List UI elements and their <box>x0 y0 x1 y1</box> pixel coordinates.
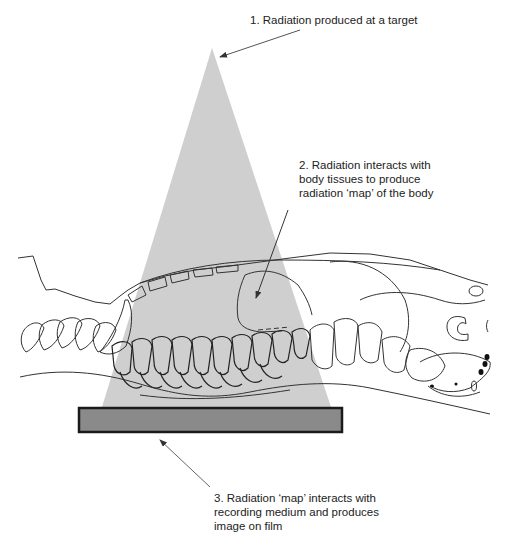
label-tissue-interaction: 2. Radiation interacts with body tissues… <box>299 158 433 200</box>
label-line: image on film <box>214 519 379 533</box>
label-line: 1. Radiation produced at a target <box>250 13 418 27</box>
marker-dots <box>430 354 490 388</box>
x-ray-beam-cone <box>102 48 331 407</box>
radiography-diagram <box>0 0 507 534</box>
label-radiation-target: 1. Radiation produced at a target <box>250 13 418 27</box>
label-line: radiation ‘map’ of the body <box>299 186 433 200</box>
label-film-image: 3. Radiation ‘map’ interacts with record… <box>214 491 379 533</box>
arrow-to-target <box>220 30 300 57</box>
label-line: recording medium and produces <box>214 505 379 519</box>
arrow-to-film <box>160 440 210 487</box>
label-line: 3. Radiation ‘map’ interacts with <box>214 491 379 505</box>
label-line: 2. Radiation interacts with <box>299 158 433 172</box>
label-line: body tissues to produce <box>299 172 433 186</box>
recording-film <box>79 408 342 432</box>
